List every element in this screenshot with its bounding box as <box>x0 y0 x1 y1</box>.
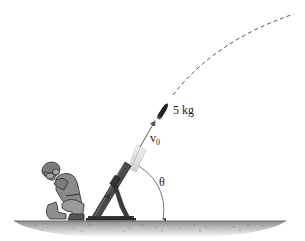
mortar-bipod <box>114 186 130 219</box>
kneeling-soldier <box>42 162 84 220</box>
initial-velocity-label: v0 <box>150 131 160 147</box>
velocity-subscript: 0 <box>156 138 160 147</box>
mass-label: 5 kg <box>173 103 194 118</box>
mortar <box>86 162 136 221</box>
mortar-diagram <box>0 0 305 241</box>
muzzle-blast <box>128 145 146 172</box>
ground <box>14 221 286 238</box>
dashed-trajectory <box>173 14 294 95</box>
angle-label: θ <box>159 175 165 190</box>
angle-arc <box>132 163 164 219</box>
projectile <box>156 102 170 120</box>
